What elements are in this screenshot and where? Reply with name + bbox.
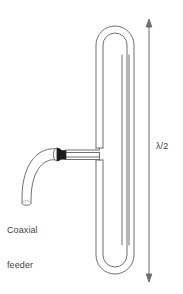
- coaxial-cable: [22, 149, 57, 206]
- half-wavelength-dimension: [146, 19, 152, 282]
- loop-outer-outline: [96, 26, 134, 274]
- coax-connector-ferrule: [53, 148, 66, 161]
- feed-network: [66, 148, 100, 160]
- loop-inner-outline: [103, 33, 127, 267]
- dimension-arrowhead-bottom: [146, 274, 152, 282]
- half-wavelength-label: λ/2: [156, 141, 168, 153]
- folded-dipole-loop: [96, 26, 134, 274]
- coaxial-feeder-label-line1: Coaxial: [7, 225, 38, 237]
- connector-pin: [61, 151, 66, 160]
- coaxial-feeder-label-line2: feeder: [7, 260, 38, 272]
- dimension-arrowhead-top: [146, 19, 152, 27]
- feed-line-upper: [66, 148, 100, 150]
- coaxial-feeder-label: Coaxial feeder: [7, 202, 38, 283]
- coax-outer-wall: [22, 149, 57, 203]
- coax-inner-wall: [31, 160, 57, 203]
